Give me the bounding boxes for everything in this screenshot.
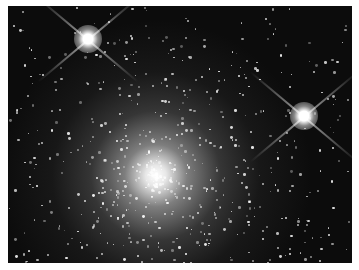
star-cluster-image [8,6,352,263]
